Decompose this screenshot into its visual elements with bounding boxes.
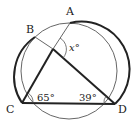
- segment-c-to-d: [22, 103, 115, 104]
- segment-b-to-e: [35, 37, 53, 49]
- label-a: A: [65, 5, 75, 18]
- angle-label-x: x°: [69, 42, 80, 53]
- angle-label-d: 39°: [79, 92, 97, 103]
- arc-bc-thick: [14, 37, 35, 103]
- label-d: D: [118, 103, 127, 116]
- label-c: C: [6, 103, 14, 116]
- label-b: B: [26, 23, 34, 36]
- geometry-diagram: A B C D 65° 39° x°: [0, 0, 139, 139]
- angle-label-c: 65°: [37, 92, 55, 103]
- segment-a-to-e: [53, 23, 70, 49]
